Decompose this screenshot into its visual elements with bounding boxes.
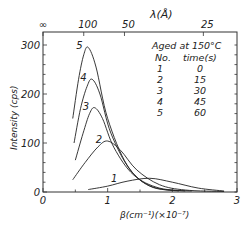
x-tick-label: 2 bbox=[169, 195, 175, 206]
x-axis-label: β(cm⁻¹)(×10⁻⁷) bbox=[119, 210, 189, 220]
top-axis-ticks: ∞1005025 bbox=[39, 19, 214, 36]
legend-row-time: 45 bbox=[194, 96, 206, 107]
legend-row-time: 60 bbox=[194, 107, 206, 118]
legend-row-no: 1 bbox=[157, 63, 163, 74]
curve-label-5: 5 bbox=[76, 40, 82, 51]
y-tick-label: 100 bbox=[21, 138, 40, 149]
y-axis-label: Intensity (cps) bbox=[9, 86, 19, 150]
legend: Aged at 150°C No. time(s) 10215330445560 bbox=[151, 40, 222, 118]
x-tick-label: 0 bbox=[40, 195, 46, 206]
curve-1 bbox=[88, 178, 224, 191]
legend-title: Aged at 150°C bbox=[151, 40, 222, 51]
curve-label-2: 2 bbox=[96, 134, 102, 145]
x-tick-label: 1 bbox=[104, 195, 110, 206]
y-tick-label: 300 bbox=[21, 40, 40, 51]
top-tick-label: ∞ bbox=[39, 19, 47, 30]
legend-row-no: 4 bbox=[157, 96, 163, 107]
legend-header-no: No. bbox=[155, 52, 171, 63]
curve-4 bbox=[74, 79, 185, 191]
curve-labels: 12345 bbox=[76, 40, 117, 184]
chart-canvas: 0100200300 0123 ∞1005025 12345 λ(Å) β(cm… bbox=[0, 0, 248, 231]
curve-3 bbox=[75, 108, 191, 191]
curve-label-1: 1 bbox=[111, 173, 117, 184]
legend-row-no: 5 bbox=[157, 107, 163, 118]
x-axis-ticks: 0123 bbox=[40, 188, 240, 206]
legend-row-no: 3 bbox=[157, 85, 163, 96]
top-tick-label: 100 bbox=[78, 19, 97, 30]
legend-row-time: 0 bbox=[197, 63, 203, 74]
curve-label-4: 4 bbox=[80, 72, 86, 83]
x-tick-label: 3 bbox=[234, 195, 240, 206]
curve-label-3: 3 bbox=[83, 101, 89, 112]
legend-header-time: time(s) bbox=[183, 52, 217, 63]
legend-row-time: 15 bbox=[194, 74, 206, 85]
legend-row-time: 30 bbox=[194, 85, 206, 96]
top-tick-label: 25 bbox=[201, 19, 214, 30]
top-tick-label: 50 bbox=[122, 19, 135, 30]
y-tick-label: 200 bbox=[21, 89, 40, 100]
top-axis-label: λ(Å) bbox=[149, 8, 173, 21]
legend-row-no: 2 bbox=[157, 74, 163, 85]
